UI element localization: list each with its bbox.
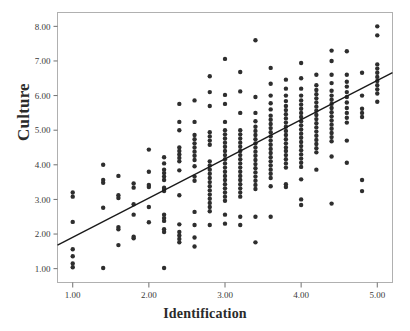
data-point [147,220,151,224]
data-point [223,182,227,186]
data-point [360,189,364,193]
data-point [253,162,257,166]
data-point [299,161,303,165]
data-point [329,154,333,158]
data-point [375,71,379,75]
y-tick-label: 1.00 [35,264,51,274]
data-point [208,176,212,180]
data-point [329,48,333,52]
y-tick-label: 7.00 [35,56,51,66]
data-point [208,159,212,163]
data-point [375,62,379,66]
data-point [238,165,242,169]
data-point [375,75,379,79]
data-point [284,108,288,112]
data-point [192,133,196,137]
data-point [284,129,288,133]
data-point [253,129,257,133]
data-point [177,222,181,226]
data-point [223,120,227,124]
data-point [329,98,333,102]
data-point [238,215,242,219]
data-point [329,106,333,110]
data-point [268,118,272,122]
data-point [192,210,196,214]
data-point [268,66,272,70]
y-tick-label: 4.00 [35,160,51,170]
data-point [268,167,272,171]
data-point [253,158,257,162]
data-point [238,140,242,144]
data-point [268,143,272,147]
data-point [345,49,349,53]
data-point [253,133,257,137]
data-point [284,157,288,161]
data-point [329,127,333,131]
data-point [329,89,333,93]
data-point [238,132,242,136]
y-tick-label: 8.00 [35,22,51,32]
data-point [147,185,151,189]
data-point [284,141,288,145]
data-point [208,90,212,94]
data-point [253,179,257,183]
data-point [238,111,242,115]
data-point [299,156,303,160]
data-point [314,73,318,77]
data-point [223,128,227,132]
data-point [299,98,303,102]
data-point [208,172,212,176]
data-point [192,235,196,239]
data-point [208,130,212,134]
data-point [329,139,333,143]
data-point [329,201,333,205]
data-point [208,188,212,192]
data-point [208,74,212,78]
data-point [208,180,212,184]
data-point [329,81,333,85]
data-point [314,146,318,150]
data-point [147,205,151,209]
data-point [71,247,75,251]
data-point [238,157,242,161]
data-point [268,93,272,97]
data-point [223,132,227,136]
data-point [223,190,227,194]
data-point [329,131,333,135]
data-point [360,71,364,75]
data-point [177,128,181,132]
data-point [299,131,303,135]
data-point [253,111,257,115]
data-point [314,92,318,96]
data-point [208,223,212,227]
data-point [284,120,288,124]
data-point [253,187,257,191]
data-point [329,118,333,122]
data-point [192,120,196,124]
data-point [268,176,272,180]
data-point [208,205,212,209]
data-point [284,112,288,116]
data-point [299,197,303,201]
data-point [192,145,196,149]
data-point [314,167,318,171]
data-point [71,254,75,258]
data-point [177,159,181,163]
data-point [268,159,272,163]
data-point [192,154,196,158]
data-point [208,209,212,213]
data-point [223,174,227,178]
x-axis-title: Identification [0,306,410,322]
data-point [238,89,242,93]
data-point [253,170,257,174]
data-point [268,122,272,126]
data-point [299,127,303,131]
data-point [299,144,303,148]
data-point [192,141,196,145]
x-tick-label: 5.00 [369,290,385,300]
data-point [223,136,227,140]
data-point [253,215,257,219]
data-point [268,184,272,188]
x-tick-label: 3.00 [217,290,233,300]
data-point [314,150,318,154]
